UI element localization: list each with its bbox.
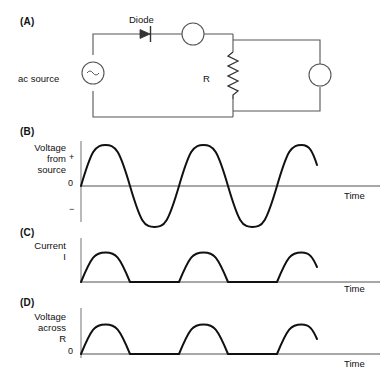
panel-b-sine-waveform: [81, 145, 317, 227]
ammeter-label: I: [187, 28, 199, 39]
diode-label: Diode: [129, 14, 154, 25]
resistor-symbol: [228, 52, 238, 99]
panel-label-b: (B): [20, 126, 34, 137]
circuit-wire-bottom: [93, 91, 233, 117]
voltmeter-label: V: [314, 73, 326, 84]
panel-c-ylabel-line1: Current: [8, 240, 66, 252]
panel-d-xlabel: Time: [344, 358, 365, 369]
circuit-wire-right-bottom: [233, 87, 320, 111]
panel-label-c: (C): [20, 227, 34, 238]
ac-source-symbol: [82, 62, 104, 84]
resistor-label: R: [203, 73, 210, 84]
diode-symbol: [140, 26, 151, 42]
panel-d-ylabel-line3: R: [8, 333, 66, 345]
circuit-wire-right-top: [233, 40, 320, 64]
panel-b-xlabel: Time: [344, 190, 365, 201]
panel-b-ylabel-line3: source: [8, 164, 66, 176]
panel-b-ylabel-line1: Voltage: [8, 142, 66, 154]
panel-b-tick-minus: −: [69, 204, 74, 214]
panel-b-ylabel-line2: from: [8, 153, 66, 165]
panel-b-tick-zero: 0: [68, 178, 73, 188]
half-wave-rectifier-figure: (A) (B) (C) (D) ac source Diode I R V Vo…: [0, 0, 390, 386]
panel-b-axes: [81, 141, 380, 222]
panel-d-ylabel-line1: Voltage: [8, 311, 66, 323]
ac-source-label: ac source: [18, 73, 59, 84]
ac-source-sine-glyph: [87, 71, 99, 75]
panel-c-axes: [81, 238, 380, 283]
panel-d-axes: [81, 308, 380, 358]
panel-b-tick-plus: +: [69, 152, 74, 162]
panel-c-halfwave-waveform: [81, 253, 317, 283]
panel-label-d: (D): [20, 297, 34, 308]
panel-c-xlabel: Time: [344, 283, 365, 294]
panel-label-a: (A): [20, 16, 34, 27]
panel-c-ylabel-line2: I: [8, 251, 66, 263]
panel-d-ylabel-line2: across: [8, 322, 66, 334]
panel-d-tick-zero: 0: [68, 346, 73, 356]
panel-d-halfwave-waveform: [81, 325, 317, 355]
circuit-wire-top: [93, 34, 233, 55]
